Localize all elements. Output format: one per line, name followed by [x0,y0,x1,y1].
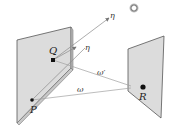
label-r: R [138,91,147,102]
point-r-marker [140,84,145,89]
label-omega: ω [77,85,84,94]
label-eta-outer: η [110,11,115,20]
diagram-canvas: Q P R η η ω′ ω [0,0,170,140]
light-source-ring-icon [129,3,139,13]
label-p: P [29,104,37,115]
label-q: Q [49,45,57,56]
point-p-marker [30,98,34,102]
point-q-marker [51,58,55,62]
label-eta-inner: η [85,43,90,52]
label-omega-prime: ω′ [97,68,106,77]
left-surface-panel [17,27,73,125]
right-surface-panel [128,36,164,118]
